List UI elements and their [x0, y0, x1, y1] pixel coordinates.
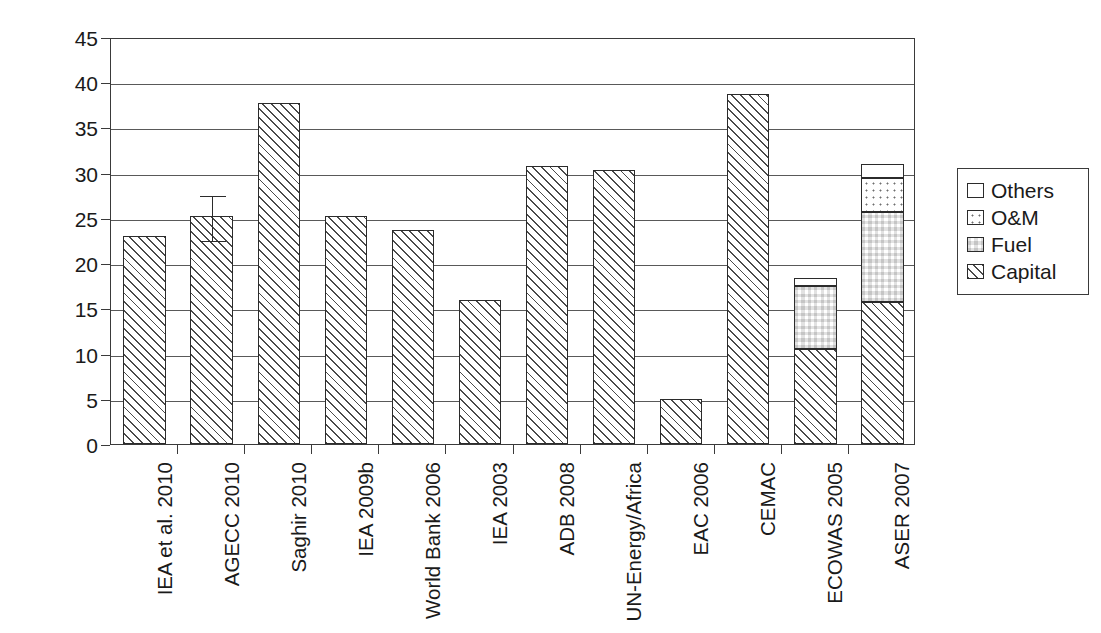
- x-tick-mark: [445, 445, 446, 454]
- bar-segment-fuel: [794, 286, 836, 349]
- x-tick-mark: [244, 445, 245, 454]
- bar-segment-o-m: [861, 178, 903, 211]
- y-tick-mark: [101, 400, 110, 401]
- legend-swatch-fuel: [967, 237, 984, 252]
- y-tick-mark: [101, 445, 110, 446]
- bar: [125, 236, 165, 444]
- x-axis-label: IEA 2009b: [355, 458, 377, 633]
- y-tick-mark: [101, 38, 110, 39]
- bar-segment-others: [794, 278, 836, 286]
- bar: [728, 94, 768, 444]
- x-axis-label: World Bank 2006: [422, 458, 444, 633]
- x-axis-label: UN-Energy/Africa: [623, 458, 645, 633]
- bar: [594, 170, 634, 444]
- x-tick-mark: [378, 445, 379, 454]
- x-tick-mark: [177, 445, 178, 454]
- x-tick-mark: [311, 445, 312, 454]
- x-axis-label: AGECC 2010: [221, 458, 243, 633]
- y-tick-label: 20: [58, 254, 98, 275]
- bar-segment-capital: [593, 170, 635, 444]
- bar: [326, 216, 366, 444]
- bar: [661, 399, 701, 444]
- x-axis-label: Saghir 2010: [288, 458, 310, 633]
- bar: [862, 164, 902, 444]
- bar: [795, 278, 835, 444]
- legend-item: O&M: [967, 204, 1082, 231]
- x-axis-label: IEA et al. 2010: [154, 458, 176, 633]
- legend-swatch-others: [967, 183, 984, 198]
- legend-label: Fuel: [991, 234, 1032, 255]
- bar: [259, 103, 299, 444]
- x-tick-mark: [580, 445, 581, 454]
- legend-label: O&M: [991, 207, 1039, 228]
- legend-item: Fuel: [967, 231, 1082, 258]
- y-tick-label: 10: [58, 345, 98, 366]
- x-axis-label: IEA 2003: [489, 458, 511, 633]
- bar-segment-capital: [660, 399, 702, 444]
- x-axis-label: CEMAC: [757, 458, 779, 633]
- x-axis-label: ADB 2008: [556, 458, 578, 633]
- x-tick-mark: [848, 445, 849, 454]
- y-tick-mark: [101, 309, 110, 310]
- bar-chart-figure: Cost [USD/(caplta*year)] 051015202530354…: [0, 0, 1101, 633]
- y-tick-label: 15: [58, 299, 98, 320]
- bar: [460, 300, 500, 444]
- bar-segment-capital: [325, 216, 367, 444]
- gridline: [111, 175, 914, 176]
- legend-label: Others: [991, 180, 1054, 201]
- error-bar: [212, 196, 213, 241]
- plot-area: [110, 38, 915, 445]
- bar-segment-fuel: [861, 212, 903, 302]
- bar-segment-capital: [123, 236, 165, 444]
- x-tick-mark: [714, 445, 715, 454]
- legend-swatch-capital: [967, 264, 984, 279]
- bar-segment-capital: [258, 103, 300, 444]
- y-tick-label: 5: [58, 390, 98, 411]
- bar: [527, 166, 567, 444]
- bar-segment-others: [861, 164, 903, 178]
- bar-segment-capital: [727, 94, 769, 444]
- bar-segment-capital: [526, 166, 568, 444]
- bar-segment-capital: [794, 349, 836, 444]
- y-tick-label: 30: [58, 164, 98, 185]
- legend-item: Others: [967, 177, 1082, 204]
- y-tick-mark: [101, 264, 110, 265]
- y-tick-mark: [101, 219, 110, 220]
- y-tick-mark: [101, 355, 110, 356]
- gridline: [111, 84, 914, 85]
- legend: OthersO&MFuelCapital: [957, 168, 1089, 295]
- bar-segment-capital: [190, 216, 232, 444]
- bar-segment-capital: [459, 300, 501, 444]
- error-bar-cap-top: [200, 196, 226, 197]
- gridline: [111, 129, 914, 130]
- x-tick-mark: [513, 445, 514, 454]
- legend-label: Capital: [991, 261, 1056, 282]
- y-tick-label: 25: [58, 209, 98, 230]
- bar-segment-capital: [392, 230, 434, 444]
- bar-segment-capital: [861, 302, 903, 444]
- x-tick-mark: [781, 445, 782, 454]
- x-axis-label: ECOWAS 2005: [824, 458, 846, 633]
- y-tick-mark: [101, 83, 110, 84]
- x-tick-mark: [647, 445, 648, 454]
- y-tick-mark: [101, 128, 110, 129]
- y-tick-label: 0: [58, 435, 98, 456]
- legend-item: Capital: [967, 258, 1082, 285]
- legend-swatch-o-m: [967, 210, 984, 225]
- x-axis-label: EAC 2006: [690, 458, 712, 633]
- y-tick-label: 35: [58, 118, 98, 139]
- bar: [192, 216, 232, 444]
- bar: [393, 230, 433, 444]
- error-bar-cap-bottom: [200, 241, 226, 242]
- y-tick-label: 45: [58, 28, 98, 49]
- y-tick-label: 40: [58, 73, 98, 94]
- y-tick-mark: [101, 174, 110, 175]
- x-axis-label: ASER 2007: [891, 458, 913, 633]
